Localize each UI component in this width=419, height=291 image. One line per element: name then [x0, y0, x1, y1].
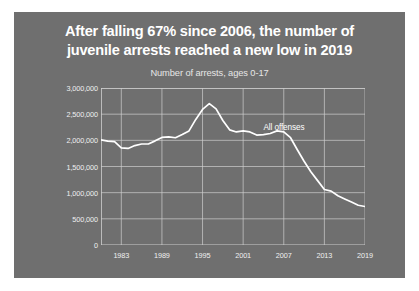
- y-axis-tick-label: 3,000,000: [38, 84, 98, 93]
- x-axis-tick-label: 1989: [139, 251, 185, 260]
- y-axis-tick-label: 2,000,000: [38, 136, 98, 145]
- horizontal-gridlines: [101, 88, 365, 245]
- y-axis-tick-label: 500,000: [38, 214, 98, 223]
- x-axis-labels: 1983198919952001200720132019: [101, 251, 365, 265]
- line-chart-svg: [101, 88, 365, 245]
- chart-title: After falling 67% since 2006, the number…: [14, 22, 405, 59]
- y-axis-tick-label: 2,500,000: [38, 110, 98, 119]
- y-axis-tick-label: 1,000,000: [38, 188, 98, 197]
- y-axis-tick-label: 0: [38, 241, 98, 250]
- chart-title-line-2: juvenile arrests reached a new low in 20…: [14, 41, 405, 60]
- chart-subtitle: Number of arrests, ages 0-17: [14, 68, 405, 78]
- x-axis-tick-label: 1995: [180, 251, 226, 260]
- data-line-all-offenses: [101, 104, 365, 207]
- plot-area: [101, 88, 365, 245]
- x-axis-tick-label: 2001: [220, 251, 266, 260]
- x-axis-tick-label: 2007: [261, 251, 307, 260]
- x-axis-tick-label: 2019: [342, 251, 388, 260]
- x-axis-tick-label: 2013: [301, 251, 347, 260]
- x-axis-tick-label: 1983: [98, 251, 144, 260]
- series-annotation-all-offenses: All offenses: [263, 123, 304, 132]
- chart-title-line-1: After falling 67% since 2006, the number…: [14, 22, 405, 41]
- chart-card: After falling 67% since 2006, the number…: [14, 12, 405, 278]
- y-axis-labels: 0500,0001,000,0001,500,0002,000,0002,500…: [34, 88, 98, 245]
- y-axis-tick-label: 1,500,000: [38, 162, 98, 171]
